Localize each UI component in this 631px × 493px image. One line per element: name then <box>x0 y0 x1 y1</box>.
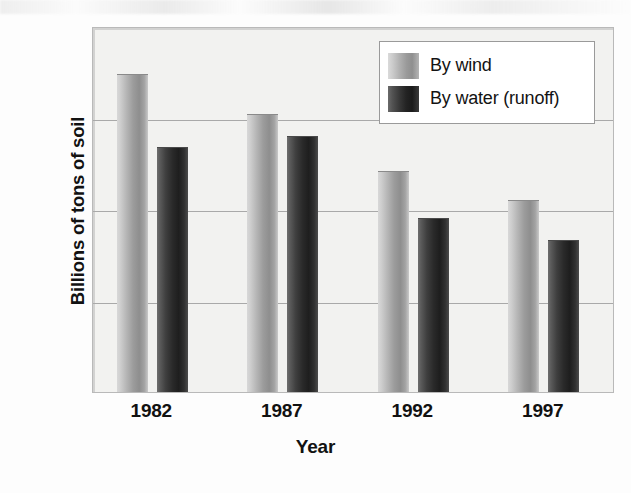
bar-1982-wind <box>117 74 148 392</box>
bar-1997-water <box>548 240 579 392</box>
bar-1982-water <box>157 147 188 392</box>
bar-chart-figure: Billions of tons of soil 2.01.51.00.50 1… <box>0 0 631 493</box>
bar-1992-water <box>418 218 449 392</box>
x-tick-label-1992: 1992 <box>357 400 467 422</box>
bar-1987-water <box>287 136 318 392</box>
x-tick-label-1997: 1997 <box>488 400 598 422</box>
legend-swatch-water-icon <box>388 86 419 112</box>
legend-label-wind: By wind <box>430 55 492 76</box>
x-tick-label-1982: 1982 <box>96 400 206 422</box>
legend-swatch-wind-icon <box>388 53 419 79</box>
chart-legend: By wind By water (runoff) <box>379 41 595 124</box>
bar-1997-wind <box>508 200 539 392</box>
x-axis-title: Year <box>0 436 631 458</box>
bar-1992-wind <box>378 171 409 392</box>
y-axis-title: Billions of tons of soil <box>67 41 89 381</box>
bar-1987-wind <box>247 114 278 392</box>
x-tick-label-1987: 1987 <box>227 400 337 422</box>
legend-entry-wind: By wind <box>388 49 584 82</box>
legend-entry-water: By water (runoff) <box>388 82 584 115</box>
scan-artifact <box>0 0 631 14</box>
legend-label-water: By water (runoff) <box>430 88 559 109</box>
